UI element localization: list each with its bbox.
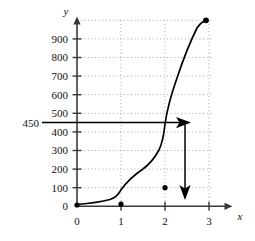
- y-axis: [73, 17, 80, 207]
- y-tick-label-500: 500: [52, 107, 69, 119]
- y-tick-label-200: 200: [52, 163, 69, 175]
- horizontal-gridlines: [77, 20, 212, 187]
- x-axis-arrowhead: [225, 203, 233, 210]
- x-axis-label: x: [237, 210, 243, 222]
- x-tick-label-3: 3: [206, 215, 212, 227]
- x-tick-label-0: 0: [74, 215, 80, 227]
- exponential-graph-figure: 900 800 700 600 500 400 300 200 100 0 0 …: [0, 0, 255, 241]
- data-point-1: [118, 202, 123, 207]
- y-tick-label-300: 300: [52, 144, 69, 156]
- solution-value-label: 450: [23, 117, 40, 129]
- y-tick-label-700: 700: [52, 70, 69, 82]
- y-tick-label-0: 0: [63, 200, 69, 212]
- x-tick-labels: 0 1 2 3: [74, 215, 212, 227]
- y-tick-label-800: 800: [52, 51, 69, 63]
- chart-canvas: 900 800 700 600 500 400 300 200 100 0 0 …: [0, 0, 255, 241]
- data-point-2: [162, 185, 167, 190]
- y-tick-label-100: 100: [52, 182, 69, 194]
- y-tick-label-600: 600: [52, 89, 69, 101]
- x-tick-label-1: 1: [118, 215, 124, 227]
- y-tick-label-400: 400: [52, 126, 69, 138]
- y-axis-arrowhead: [73, 17, 80, 25]
- x-tick-label-2: 2: [162, 215, 168, 227]
- vertical-solution-arrow: [179, 125, 190, 201]
- data-point-0: [74, 202, 79, 207]
- data-point-3: [203, 17, 209, 23]
- y-tick-label-900: 900: [52, 33, 69, 45]
- y-axis-label: y: [63, 5, 69, 17]
- exponential-curve: [77, 20, 206, 204]
